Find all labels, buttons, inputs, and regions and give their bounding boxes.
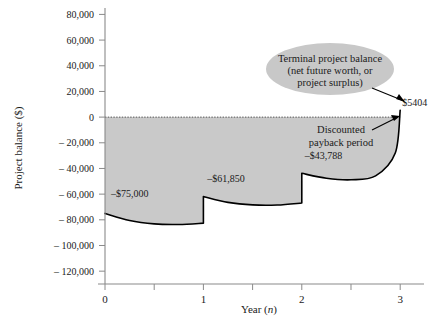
- x-tick-label: 2: [299, 293, 305, 305]
- y-tick-label: – 60,000: [58, 189, 94, 200]
- chart-canvas: 80,00060,00040,00020,0000– 20,000– 40,00…: [0, 0, 442, 336]
- data-point-label: –$75,000: [110, 188, 148, 199]
- y-tick-label: – 80,000: [58, 214, 94, 225]
- y-tick-label: 60,000: [67, 35, 95, 46]
- y-tick-label: 80,000: [67, 9, 95, 20]
- callout-line-1: Terminal project balance: [278, 53, 383, 64]
- data-point-label: $5404: [402, 97, 427, 108]
- x-tick-label: 1: [201, 293, 207, 305]
- y-tick-label: 40,000: [67, 60, 95, 71]
- project-balance-chart: 80,00060,00040,00020,0000– 20,000– 40,00…: [0, 0, 442, 336]
- x-axis-title-suffix: ): [273, 303, 277, 316]
- callout-line-3: project surplus): [297, 77, 363, 89]
- y-tick-label: – 40,000: [58, 163, 94, 174]
- data-point-label: –$61,850: [206, 173, 245, 184]
- y-tick-label: – 100,000: [53, 240, 94, 251]
- payback-line-2: payback period: [309, 137, 374, 148]
- y-tick-label: 0: [89, 112, 94, 123]
- y-tick-label: – 20,000: [58, 137, 94, 148]
- x-tick-label: 0: [102, 293, 108, 305]
- y-tick-label: – 120,000: [53, 266, 94, 277]
- payback-line-1: Discounted: [317, 124, 366, 135]
- data-point-label: –$43,788: [304, 150, 343, 161]
- x-axis-title: Year (n): [241, 303, 277, 316]
- x-axis-title-prefix: Year (: [241, 303, 268, 316]
- y-tick-label: 20,000: [67, 86, 95, 97]
- x-tick-label: 3: [397, 293, 403, 305]
- callout-line-2: (net future worth, or: [287, 65, 373, 77]
- y-axis-title: Project balance ($): [12, 106, 25, 189]
